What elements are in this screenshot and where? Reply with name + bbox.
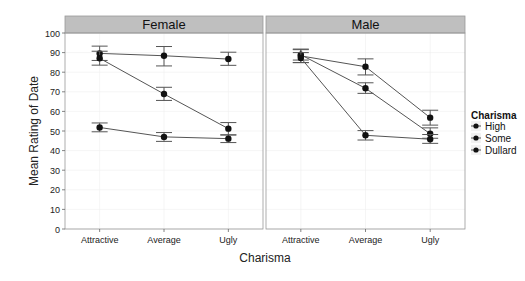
data-point [298, 55, 304, 61]
data-point [96, 124, 102, 130]
y-tick-label: 100 [45, 29, 60, 39]
y-tick-label: 40 [50, 146, 60, 156]
legend: Charisma HighSomeDullard [471, 110, 517, 156]
panel-male: MaleAttractiveAverageUgly [266, 16, 465, 245]
y-tick-label: 20 [50, 185, 60, 195]
facet-strip-label: Female [142, 17, 185, 32]
data-point [362, 132, 368, 138]
legend-entry-high: High [471, 121, 506, 132]
data-point [96, 55, 102, 61]
data-point [427, 136, 433, 142]
legend-label: High [485, 121, 506, 132]
data-point [362, 64, 368, 70]
legend-entry-some: Some [471, 133, 512, 144]
y-tick-label: 30 [50, 166, 60, 176]
x-tick-label: Attractive [282, 235, 320, 245]
y-axis: 0102030405060708090100 [45, 29, 65, 235]
y-tick-label: 90 [50, 48, 60, 58]
y-tick-label: 50 [50, 127, 60, 137]
y-tick-label: 10 [50, 205, 60, 215]
y-axis-title: Mean Rating of Date [27, 76, 41, 186]
chart: FemaleAttractiveAverageUglyMaleAttractiv… [0, 0, 525, 281]
data-point [161, 53, 167, 59]
data-point [225, 56, 231, 62]
x-tick-label: Ugly [219, 235, 238, 245]
panels-layer: FemaleAttractiveAverageUglyMaleAttractiv… [65, 16, 465, 245]
data-point [161, 91, 167, 97]
facet-strip-label: Male [351, 17, 379, 32]
panel-female: FemaleAttractiveAverageUgly [65, 16, 263, 245]
y-tick-label: 60 [50, 107, 60, 117]
legend-key-point [473, 123, 478, 128]
y-tick-label: 80 [50, 68, 60, 78]
x-axis-title: Charisma [239, 251, 291, 265]
legend-key-point [473, 147, 478, 152]
x-tick-label: Average [349, 235, 382, 245]
data-point [161, 134, 167, 140]
legend-key-point [473, 135, 478, 140]
legend-title: Charisma [471, 110, 517, 121]
y-tick-label: 0 [55, 225, 60, 235]
y-tick-label: 70 [50, 87, 60, 97]
data-point [225, 125, 231, 131]
legend-entries: HighSomeDullard [471, 121, 517, 156]
data-point [427, 114, 433, 120]
legend-entry-dullard: Dullard [471, 145, 517, 156]
data-point [362, 85, 368, 91]
legend-label: Dullard [485, 145, 517, 156]
x-tick-label: Attractive [81, 235, 119, 245]
x-tick-label: Ugly [421, 235, 440, 245]
legend-label: Some [485, 133, 512, 144]
x-tick-label: Average [147, 235, 180, 245]
data-point [225, 135, 231, 141]
